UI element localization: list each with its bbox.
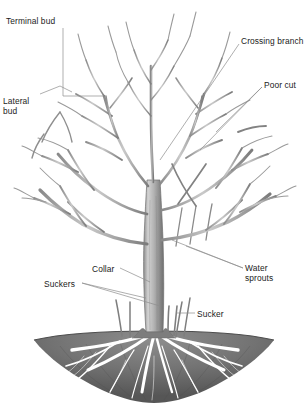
label-poor-cut: Poor cut — [264, 80, 296, 90]
label-water-sprouts: Watersprouts — [245, 263, 273, 283]
poor-cut-detail — [238, 126, 266, 132]
label-terminal-bud: Terminal bud — [6, 16, 55, 26]
tree-pruning-diagram: Terminal bud Lateralbud Crossing branch … — [0, 0, 308, 411]
label-collar: Collar — [92, 264, 114, 274]
leader-suckers-a — [82, 283, 146, 298]
label-suckers: Suckers — [44, 279, 75, 289]
leader-water-sprouts-b — [172, 240, 243, 268]
leader-poor-cut-b — [200, 87, 262, 150]
water-sprouts-shoots — [176, 204, 212, 246]
leader-crossing-branch — [160, 44, 239, 160]
leader-lateral-bud — [40, 86, 72, 94]
label-sucker: Sucker — [197, 309, 224, 319]
label-lateral-bud: Lateralbud — [3, 96, 29, 116]
label-crossing-branch: Crossing branch — [241, 36, 303, 46]
bud-detail — [32, 112, 72, 158]
trunk — [132, 180, 176, 338]
tree-illustration — [0, 0, 308, 411]
